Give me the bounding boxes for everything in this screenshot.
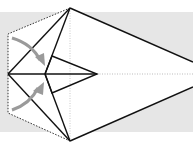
origami-diagram xyxy=(0,0,193,147)
